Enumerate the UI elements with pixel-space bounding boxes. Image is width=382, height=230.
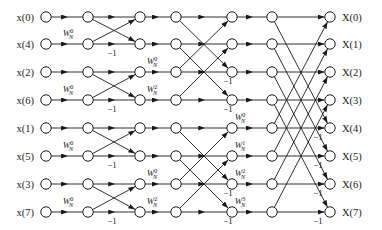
node-col0-row6 <box>41 179 51 189</box>
node-col2-row4 <box>135 123 145 133</box>
nodes-layer <box>41 12 335 217</box>
node-col2-row2 <box>135 67 145 77</box>
node-col1-row0 <box>83 12 93 22</box>
node-col3-row4 <box>171 123 181 133</box>
twiddle-label-tw-s1-r7: W0N <box>63 195 74 209</box>
node-col3-row2 <box>171 67 181 77</box>
input-label-6: x(6) <box>17 95 35 107</box>
twiddle-label-tw-s2-r6: W0N <box>147 167 158 181</box>
output-label-1: X(1) <box>342 39 362 51</box>
minus-one-label-stage3-row4: −1 <box>313 132 323 142</box>
output-label-5: X(5) <box>342 151 362 163</box>
node-col2-row6 <box>135 179 145 189</box>
node-col6-row1 <box>325 39 335 49</box>
node-col5-row2 <box>267 67 277 77</box>
node-col1-row2 <box>83 67 93 77</box>
output-label-0: X(0) <box>342 12 362 24</box>
fft-signal-flow-graph: x(0)x(4)x(2)x(6)x(1)x(5)x(3)x(7)X(0)X(1)… <box>0 0 382 230</box>
node-col5-row0 <box>267 12 277 22</box>
input-label-4: x(4) <box>17 39 35 51</box>
minus-one-label-stage1-row3: −1 <box>107 104 117 114</box>
node-col6-row3 <box>325 95 335 105</box>
twiddle-label-tw-s1-r1: W0N <box>63 27 74 41</box>
node-col1-row6 <box>83 179 93 189</box>
node-col0-row1 <box>41 39 51 49</box>
output-label-6: X(6) <box>342 179 362 191</box>
twiddle-label-tw-s3-r7: W3N <box>235 195 246 209</box>
input-label-0: x(0) <box>17 12 35 24</box>
output-label-2: X(2) <box>342 67 362 79</box>
minus-one-label-stage2-row6: −1 <box>223 188 233 198</box>
input-label-3: x(3) <box>17 179 35 191</box>
node-col1-row5 <box>83 151 93 161</box>
node-col0-row2 <box>41 67 51 77</box>
twiddle-label-tw-s2-r3: W2N <box>147 83 158 97</box>
node-col4-row4 <box>227 123 237 133</box>
input-label-7: x(7) <box>17 207 35 219</box>
node-col1-row4 <box>83 123 93 133</box>
node-col6-row4 <box>325 123 335 133</box>
node-col5-row5 <box>267 151 277 161</box>
node-col6-row0 <box>325 12 335 22</box>
minus-one-label-stage2-row7: −1 <box>223 216 233 226</box>
twiddle-label-tw-s1-r3: W0N <box>63 83 74 97</box>
twiddle-label-tw-s1-r5: W0N <box>63 139 74 153</box>
node-col4-row0 <box>227 12 237 22</box>
node-col6-row7 <box>325 207 335 217</box>
node-col5-row3 <box>267 95 277 105</box>
node-col0-row3 <box>41 95 51 105</box>
node-col1-row3 <box>83 95 93 105</box>
minus-one-label-stage2-row3: −1 <box>223 104 233 114</box>
node-col0-row4 <box>41 123 51 133</box>
node-col3-row1 <box>171 39 181 49</box>
node-col2-row5 <box>135 151 145 161</box>
minus-one-label-stage2-row2: −1 <box>223 76 233 86</box>
node-col5-row4 <box>267 123 277 133</box>
node-col3-row6 <box>171 179 181 189</box>
output-label-3: X(3) <box>342 95 362 107</box>
output-label-7: X(7) <box>342 207 362 219</box>
minus-one-label-stage1-row7: −1 <box>107 216 117 226</box>
node-col4-row1 <box>227 39 237 49</box>
minus-one-label-stage1-row5: −1 <box>107 160 117 170</box>
node-col5-row7 <box>267 207 277 217</box>
twiddle-label-tw-s3-r6: W2N <box>235 167 246 181</box>
node-col6-row2 <box>325 67 335 77</box>
node-col3-row3 <box>171 95 181 105</box>
minus-one-label-stage1-row1: −1 <box>107 48 117 58</box>
node-col0-row0 <box>41 12 51 22</box>
node-col0-row5 <box>41 151 51 161</box>
minus-one-label-stage3-row7: −1 <box>313 216 323 226</box>
node-col2-row0 <box>135 12 145 22</box>
twiddle-label-tw-s3-r5: W1N <box>235 139 246 153</box>
twiddle-label-tw-s2-r2: W0N <box>147 55 158 69</box>
node-col5-row1 <box>267 39 277 49</box>
node-col1-row7 <box>83 207 93 217</box>
twiddle-label-tw-s2-r7: W2N <box>147 195 158 209</box>
node-col2-row7 <box>135 207 145 217</box>
node-col3-row5 <box>171 151 181 161</box>
node-col6-row6 <box>325 179 335 189</box>
output-label-4: X(4) <box>342 123 362 135</box>
node-col5-row6 <box>267 179 277 189</box>
node-col0-row7 <box>41 207 51 217</box>
node-col3-row0 <box>171 12 181 22</box>
minus-one-label-stage3-row6: −1 <box>313 188 323 198</box>
node-col4-row5 <box>227 151 237 161</box>
input-label-5: x(5) <box>17 151 35 163</box>
node-col3-row7 <box>171 207 181 217</box>
input-label-1: x(1) <box>17 123 35 135</box>
twiddle-label-tw-s3-r4: W0N <box>235 111 246 125</box>
fft-butterfly-diagram: x(0)x(4)x(2)x(6)x(1)x(5)x(3)x(7)X(0)X(1)… <box>0 0 382 230</box>
input-label-2: x(2) <box>17 67 35 79</box>
node-col6-row5 <box>325 151 335 161</box>
node-col1-row1 <box>83 39 93 49</box>
node-col2-row3 <box>135 95 145 105</box>
node-col2-row1 <box>135 39 145 49</box>
minus-one-label-stage3-row5: −1 <box>313 160 323 170</box>
